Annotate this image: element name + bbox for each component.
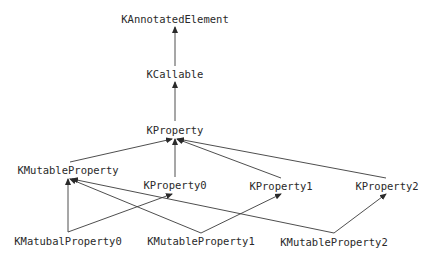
- node-kproperty0: KProperty0: [143, 179, 206, 191]
- node-kproperty: KProperty: [147, 124, 204, 136]
- class-hierarchy-diagram: KAnnotatedElementKCallableKPropertyKMuta…: [0, 0, 436, 259]
- inheritance-arrow-kproperty1-to-kproperty: [177, 139, 281, 178]
- node-kmutableproperty1: KMutableProperty1: [147, 235, 254, 247]
- node-kmatubalproperty0: KMatubalProperty0: [14, 235, 121, 247]
- node-kannotatedelement: KAnnotatedElement: [121, 13, 228, 25]
- inheritance-arrow-kmutableproperty-to-kproperty: [70, 139, 172, 162]
- node-kmutableproperty2: KMutableProperty2: [280, 236, 387, 248]
- node-kproperty2: KProperty2: [355, 180, 418, 192]
- node-kcallable: KCallable: [147, 68, 204, 80]
- node-kproperty1: KProperty1: [249, 180, 312, 192]
- inheritance-arrow-kmutableproperty2-to-kproperty2: [334, 194, 386, 233]
- edges-group: [68, 27, 386, 233]
- inheritance-arrow-kproperty2-to-kproperty: [178, 139, 386, 178]
- nodes-group: KAnnotatedElementKCallableKPropertyKMuta…: [14, 13, 418, 248]
- node-kmutableproperty: KMutableProperty: [17, 164, 118, 176]
